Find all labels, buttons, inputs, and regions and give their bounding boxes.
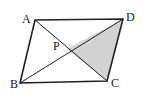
label-a: A xyxy=(22,13,31,25)
label-b: B xyxy=(10,78,18,90)
parallelogram-diagram: A D B C P xyxy=(0,0,146,95)
label-p: P xyxy=(53,40,60,52)
label-c: C xyxy=(111,77,119,89)
label-d: D xyxy=(126,11,135,23)
